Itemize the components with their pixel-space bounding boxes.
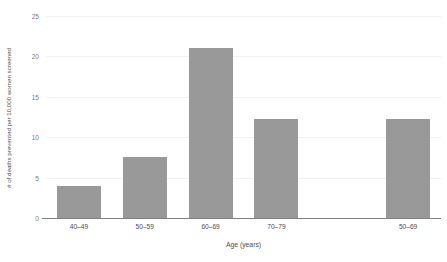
x-axis-line	[46, 218, 441, 219]
bar[interactable]	[189, 48, 233, 218]
bar[interactable]	[123, 157, 167, 218]
x-axis-tick-label: 50–59	[136, 223, 154, 230]
bar[interactable]	[57, 186, 101, 218]
y-axis-tick-label: 5	[35, 174, 39, 181]
plot-area: 0510152025 40–4950–5960–6970–7950–69	[46, 16, 441, 219]
y-axis-tick-label: 10	[32, 134, 39, 141]
bar-series: 40–4950–5960–6970–7950–69	[46, 16, 441, 218]
y-axis-tick-label: 15	[32, 93, 39, 100]
bar[interactable]	[254, 119, 298, 218]
x-axis-title: Age (years)	[46, 241, 441, 248]
bar[interactable]	[386, 119, 430, 218]
bar-slot: 50–69	[375, 16, 441, 218]
x-axis-tick-label: 40–49	[70, 223, 88, 230]
y-axis-tick-label: 25	[32, 13, 39, 20]
bar-slot: 60–69	[178, 16, 244, 218]
y-axis-title-text: # of deaths prevented per 10,000 women s…	[5, 48, 12, 188]
x-axis-tick-label: 70–79	[267, 223, 285, 230]
y-axis-title: # of deaths prevented per 10,000 women s…	[0, 18, 16, 218]
x-axis-tick-label: 50–69	[399, 223, 417, 230]
y-axis-tick-label: 0	[35, 215, 39, 222]
bar-slot: 50–59	[112, 16, 178, 218]
y-axis-tick-label: 20	[32, 53, 39, 60]
bar-slot: 40–49	[46, 16, 112, 218]
x-axis-tick-label: 60–69	[201, 223, 219, 230]
clipped-caption	[8, 256, 438, 262]
bar-slot: 70–79	[244, 16, 310, 218]
bar-slot	[309, 16, 375, 218]
bar-chart-figure: # of deaths prevented per 10,000 women s…	[0, 0, 447, 262]
